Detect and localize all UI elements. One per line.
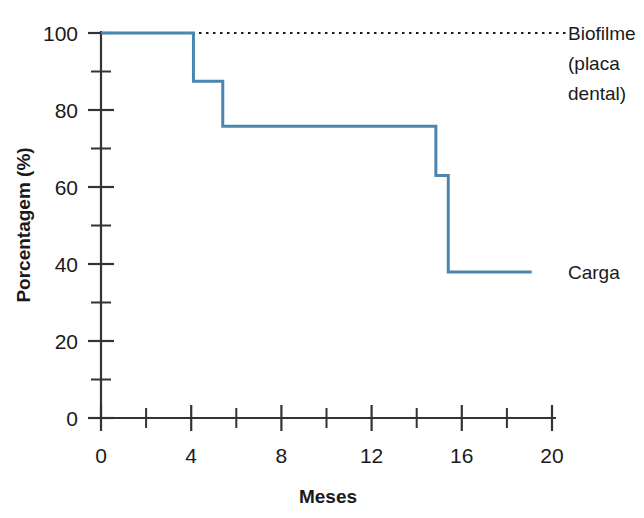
- x-axis-title: Meses: [299, 486, 357, 507]
- x-tick-label-12: 12: [360, 444, 383, 467]
- series-label-biofilme-line1: Biofilme: [568, 23, 636, 44]
- x-tick-label-20: 20: [540, 444, 563, 467]
- y-axis-tick-labels: 0 20 40 60 80 100: [43, 22, 78, 430]
- y-tick-label-0: 0: [66, 407, 78, 430]
- y-tick-label-80: 80: [55, 99, 78, 122]
- x-tick-label-0: 0: [95, 444, 107, 467]
- x-axis-tick-labels: 0 4 8 12 16 20: [95, 444, 564, 467]
- series-line-carga: [101, 33, 532, 272]
- y-tick-label-40: 40: [55, 253, 78, 276]
- y-tick-label-20: 20: [55, 330, 78, 353]
- chart-container: 0 20 40 60 80 100 Porcentagem (%): [0, 0, 644, 518]
- series-label-biofilme: Biofilme (placa dental): [568, 23, 636, 104]
- x-tick-label-8: 8: [276, 444, 288, 467]
- series-label-biofilme-line3: dental): [568, 83, 626, 104]
- series-label-biofilme-line2: (placa: [568, 53, 620, 74]
- y-tick-label-100: 100: [43, 22, 78, 45]
- y-tick-label-60: 60: [55, 176, 78, 199]
- x-tick-label-4: 4: [185, 444, 197, 467]
- step-chart-svg: 0 20 40 60 80 100 Porcentagem (%): [0, 0, 644, 518]
- y-axis-title: Porcentagem (%): [13, 147, 34, 302]
- x-tick-label-16: 16: [450, 444, 473, 467]
- series-label-carga: Carga: [568, 262, 620, 283]
